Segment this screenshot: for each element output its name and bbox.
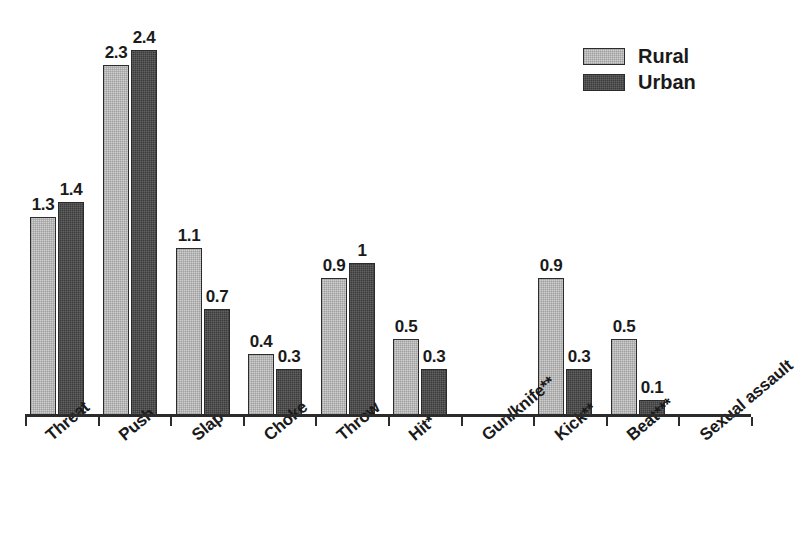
axis-tick [25,417,27,426]
value-label-rural-7: 0.9 [530,256,572,276]
bar-urban-1 [131,50,157,415]
bar-rural-2 [176,248,202,415]
bar-rural-4 [321,278,347,415]
bar-urban-0 [58,202,84,415]
value-label-urban-0: 1.4 [50,180,92,200]
axis-tick [315,417,317,426]
axis-tick [751,417,753,426]
bar-urban-4 [349,263,375,415]
bar-rural-8 [611,339,637,415]
axis-tick [461,417,463,426]
legend-label-rural: Rural [638,46,689,66]
urban-swatch-icon [583,74,625,91]
bar-rural-1 [103,65,129,415]
value-label-rural-8: 0.5 [603,317,645,337]
rural-swatch-icon [583,48,625,65]
bar-rural-0 [30,217,56,415]
bar-urban-5 [421,369,447,415]
legend-item-urban: Urban [583,70,696,94]
axis-tick [533,417,535,426]
axis-tick [170,417,172,426]
x-axis-line [25,414,751,417]
axis-tick [606,417,608,426]
axis-tick [243,417,245,426]
axis-tick [388,417,390,426]
value-label-urban-2: 0.7 [196,287,238,307]
value-label-urban-4: 1 [341,241,383,261]
axis-tick [98,417,100,426]
value-label-urban-7: 0.3 [558,347,600,367]
value-label-urban-8: 0.1 [631,378,673,398]
legend-item-rural: Rural [583,44,696,68]
value-label-urban-5: 0.3 [413,347,455,367]
value-label-rural-2: 1.1 [168,226,210,246]
axis-tick [678,417,680,426]
value-label-rural-5: 0.5 [385,317,427,337]
value-label-urban-3: 0.3 [268,347,310,367]
value-label-urban-1: 2.4 [123,28,165,48]
legend: Rural Urban [583,44,696,96]
legend-label-urban: Urban [638,72,696,92]
bar-urban-2 [204,309,230,415]
category-label-9: Sexual assault [696,356,797,445]
